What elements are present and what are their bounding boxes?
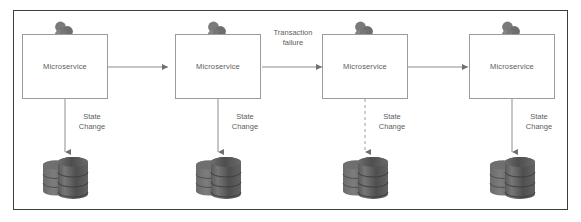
database-icon-3 [343, 157, 388, 199]
service-label-2: Microservice [196, 62, 240, 71]
service-box-2[interactable]: Microservice [175, 34, 261, 99]
database-icon-4 [490, 157, 535, 199]
state-change-label-4: State Change [517, 112, 561, 132]
service-box-3[interactable]: Microservice [322, 34, 408, 99]
state-change-label-1-line-2: Change [70, 122, 114, 132]
service-label-1: Microservice [43, 62, 87, 71]
state-change-label-1-line-1: State [70, 112, 114, 122]
state-change-label-2-line-2: Change [223, 122, 267, 132]
transaction-failure-line-1: Transaction [265, 28, 321, 38]
state-change-label-4-line-1: State [517, 112, 561, 122]
service-box-1[interactable]: Microservice [22, 34, 108, 99]
transaction-failure-label: Transaction failure [265, 28, 321, 48]
state-change-label-4-line-2: Change [517, 122, 561, 132]
database-icon-2 [196, 157, 241, 199]
state-change-label-3-line-1: State [370, 112, 414, 122]
diagram-canvas: Microservice Microservice Microservice M… [0, 0, 581, 222]
state-change-label-2: State Change [223, 112, 267, 132]
service-label-3: Microservice [343, 62, 387, 71]
database-icon-1 [43, 157, 88, 199]
service-box-4[interactable]: Microservice [469, 34, 555, 99]
transaction-failure-line-2: failure [265, 38, 321, 48]
state-change-label-2-line-1: State [223, 112, 267, 122]
service-label-4: Microservice [490, 62, 534, 71]
state-change-label-3-line-2: Change [370, 122, 414, 132]
state-change-label-3: State Change [370, 112, 414, 132]
state-change-label-1: State Change [70, 112, 114, 132]
